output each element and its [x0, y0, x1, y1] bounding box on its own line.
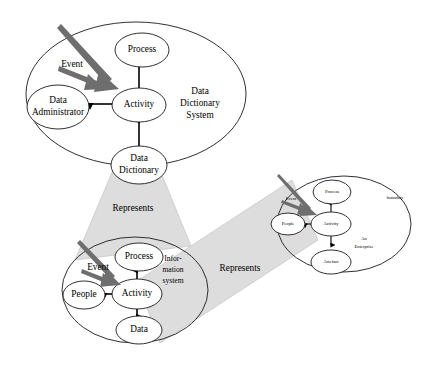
- node-data-dictionary-label-line1: Data: [130, 153, 148, 163]
- enterprise-boundary-label: boundary: [387, 195, 404, 200]
- node-process-right-label: Process: [325, 189, 339, 194]
- node-data-dictionary-label-line2: Dictionary: [119, 165, 159, 175]
- node-people-mid-label: People: [71, 289, 96, 299]
- enterprise-label-line2: Enterprise: [355, 244, 374, 249]
- node-process-top-label: Process: [128, 44, 157, 54]
- enterprise-label-line1: An: [361, 236, 367, 241]
- represents-label-lower: Represents: [220, 263, 261, 273]
- data-dictionary-system-label-line1: Data: [191, 86, 209, 96]
- information-system-label-line2: mation: [162, 265, 183, 274]
- event-label-top: Event: [61, 59, 83, 69]
- information-system-label-line3: system: [162, 276, 183, 285]
- node-activity-top-label: Activity: [124, 99, 155, 109]
- node-data-mid-label: Data: [130, 324, 148, 334]
- node-activity-mid-label: Activity: [122, 288, 153, 298]
- represents-label-upper: Represents: [113, 203, 154, 213]
- diagram-canvas: Represents Represents Process Activity D…: [0, 0, 424, 365]
- node-activity-right-label: Activity: [323, 221, 339, 226]
- node-artefact-right-label: Artefact: [323, 259, 339, 264]
- diagram-svg: Represents Represents Process Activity D…: [0, 0, 424, 365]
- node-people-right-label: People: [282, 221, 295, 226]
- enterprise-group: Process Activity People Artefact An Ente…: [271, 174, 411, 274]
- information-system-label-line1: Infor-: [164, 254, 182, 263]
- data-dictionary-system-label-line3: System: [186, 110, 214, 120]
- node-process-mid-label: Process: [125, 251, 154, 261]
- event-label-right: Event: [286, 196, 297, 201]
- data-dictionary-system-label-line2: Dictionary: [180, 98, 220, 108]
- node-data-administrator-label-line1: Data: [49, 95, 67, 105]
- data-dictionary-system-group: Process Activity Data Administrator Data…: [26, 22, 246, 184]
- event-label-mid: Event: [87, 262, 109, 272]
- node-data-administrator-label-line2: Administrator: [32, 107, 85, 117]
